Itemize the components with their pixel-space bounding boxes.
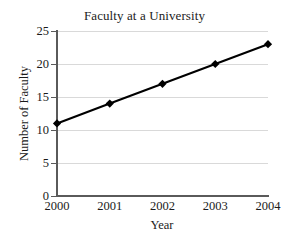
y-axis-tick-mark xyxy=(51,31,57,32)
plot-area xyxy=(57,31,268,196)
y-axis-tick-label: 15 xyxy=(25,90,49,105)
y-axis-tick-label: 25 xyxy=(25,24,49,39)
gridline xyxy=(57,130,268,131)
y-axis-tick-label: 5 xyxy=(25,156,49,171)
gridline xyxy=(57,163,268,164)
y-axis-tick-label: 20 xyxy=(25,57,49,72)
y-axis-tick-mark xyxy=(51,64,57,65)
line-chart-figure: Faculty at a University Number of Facult… xyxy=(0,0,289,237)
x-axis-tick-label: 2000 xyxy=(32,199,82,214)
x-axis-tick-label: 2003 xyxy=(190,199,240,214)
y-axis-tick-mark xyxy=(51,196,57,197)
y-axis-tick-label: 10 xyxy=(25,123,49,138)
y-axis-line xyxy=(56,30,58,197)
x-axis-title: Year xyxy=(55,218,269,233)
x-axis-line xyxy=(56,195,269,197)
y-axis-tick-mark xyxy=(51,97,57,98)
gridline xyxy=(57,97,268,98)
gridline xyxy=(57,31,268,32)
gridline xyxy=(57,64,268,65)
y-axis-tick-mark xyxy=(51,163,57,164)
x-axis-tick-label: 2001 xyxy=(85,199,135,214)
x-axis-tick-label: 2002 xyxy=(138,199,188,214)
y-axis-tick-mark xyxy=(51,130,57,131)
x-axis-tick-label: 2004 xyxy=(243,199,289,214)
